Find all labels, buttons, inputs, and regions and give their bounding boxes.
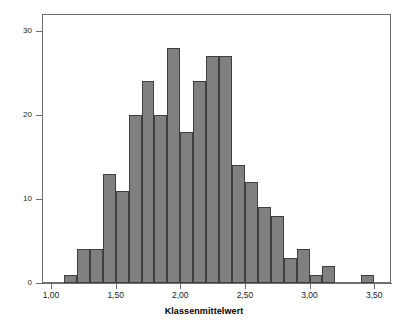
y-axis-tick-label: 0 [6,279,32,287]
histogram-bar [284,258,297,283]
histogram-bar [129,115,142,283]
histogram-bar [310,275,323,283]
histogram-bar [167,48,180,283]
histogram-bar [219,56,232,283]
plot-area [42,14,391,283]
y-axis-tick-label: 10 [6,195,32,203]
x-axis-tick [245,284,246,289]
x-axis-tick [180,284,181,289]
histogram-bar [271,216,284,283]
x-axis-line [42,283,392,284]
histogram-bar [206,56,219,283]
x-axis-tick-label: 3,00 [290,291,330,300]
bars-layer [42,14,391,283]
x-axis-tick [310,284,311,289]
histogram-bar [116,191,129,283]
x-axis-title: Klassenmittelwert [0,306,408,316]
y-axis-tick [36,199,42,200]
y-axis-line [42,14,43,283]
histogram-bar [90,249,103,283]
y-axis-tick [36,115,42,116]
histogram-bar [245,182,258,283]
x-axis-tick-label: 1,00 [31,291,71,300]
x-axis-tick-label: 2,00 [160,291,200,300]
x-axis-tick-label: 2,50 [225,291,265,300]
y-axis-tick-label: 30 [6,27,32,35]
histogram-bar [258,207,271,283]
histogram-bar [64,275,77,283]
x-axis-tick-label: 1,50 [96,291,136,300]
x-axis-tick [51,284,52,289]
histogram-bar [142,81,155,283]
histogram-bar [193,81,206,283]
x-axis-tick [374,284,375,289]
histogram-bar [361,275,374,283]
x-axis-tick [116,284,117,289]
histogram-bar [322,266,335,283]
x-axis-tick-label: 3,50 [354,291,394,300]
histogram-bar [154,115,167,283]
histogram-bar [77,249,90,283]
y-axis-tick [36,31,42,32]
histogram-bar [103,174,116,283]
histogram-bar [180,132,193,283]
y-axis-tick-label: 20 [6,111,32,119]
histogram-figure: 0102030 1,001,502,002,503,003,50 Häufigk… [0,0,408,327]
histogram-bar [232,165,245,283]
histogram-bar [297,249,310,283]
